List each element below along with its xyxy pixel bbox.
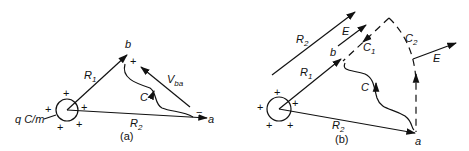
label-point-a: a	[415, 135, 421, 147]
label-r2-outer: R2	[296, 33, 309, 48]
caption-a: (a)	[120, 130, 133, 142]
plus-sign: +	[45, 103, 51, 115]
plus-sign: +	[57, 121, 63, 133]
plus-sign: +	[63, 87, 69, 99]
plus-sign: +	[292, 97, 298, 109]
panel-b: b a R1 R2 R2 E E C1 C2 C + + + + + (b)	[257, 12, 456, 147]
vector-r2	[279, 109, 415, 133]
label-r1: R1	[300, 66, 312, 81]
label-e-upper: E	[342, 25, 350, 37]
label-vba: Vba	[167, 73, 184, 88]
label-path-c: C	[140, 91, 148, 103]
label-point-a: a	[208, 113, 214, 125]
label-point-b: b	[330, 46, 336, 58]
charge-leader-line	[44, 115, 56, 119]
label-e-right: E	[433, 52, 441, 64]
label-charge-density: q C/m	[15, 113, 44, 125]
plus-sign: +	[287, 119, 293, 131]
caption-b: (b)	[335, 133, 348, 145]
label-path-c: C	[361, 81, 369, 93]
label-r2: R2	[332, 119, 345, 134]
panel-a: b + − a R1 R2 Vba C q C/m + + + + + (a)	[15, 38, 214, 142]
path-c	[344, 63, 414, 130]
label-path-c2: C2	[405, 32, 418, 47]
label-point-b: b	[125, 38, 131, 50]
plus-sign: +	[257, 101, 263, 113]
vector-r1	[67, 55, 127, 110]
plus-sign: +	[130, 55, 136, 67]
path-c-arrow	[151, 91, 154, 98]
plus-sign: +	[274, 86, 280, 98]
label-path-c1: C1	[363, 41, 375, 56]
figure-diagram: b + − a R1 R2 Vba C q C/m + + + + + (a) …	[0, 0, 469, 151]
label-r1: R1	[84, 69, 96, 84]
plus-sign: +	[81, 101, 87, 113]
vector-r1	[279, 59, 341, 109]
path-c	[124, 64, 193, 117]
plus-sign: +	[76, 118, 82, 130]
vector-r2-outer	[272, 12, 355, 75]
minus-sign: −	[196, 106, 202, 118]
plus-sign: +	[266, 119, 272, 131]
